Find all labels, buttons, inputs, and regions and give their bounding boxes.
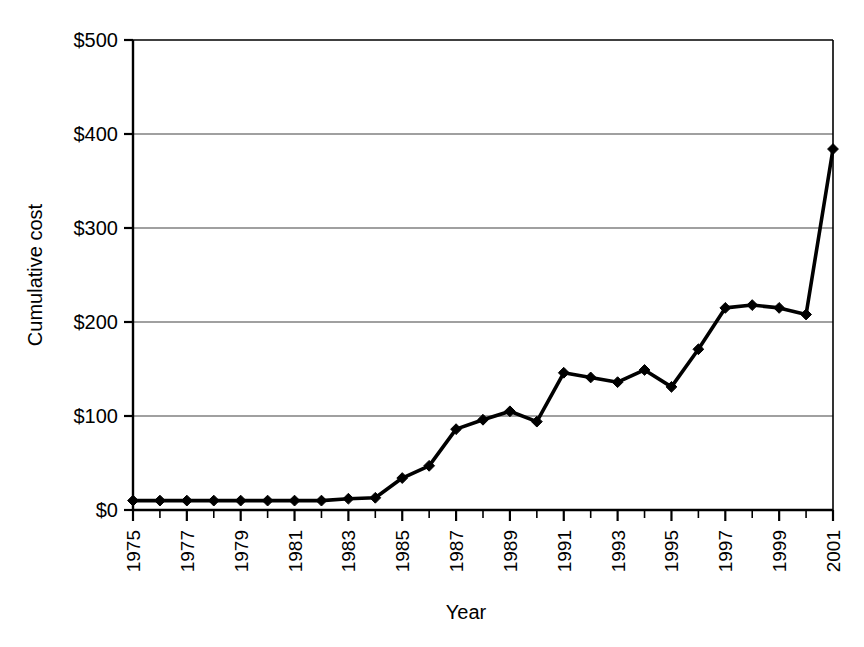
x-tick-label: 1993 (608, 530, 629, 572)
x-axis-title: Year (446, 601, 487, 623)
data-point-marker (128, 495, 139, 506)
x-tick-label: 1989 (500, 530, 521, 572)
y-tick-label: $100 (74, 405, 119, 427)
y-tick-label: $500 (74, 29, 119, 51)
data-point-marker (612, 377, 623, 388)
series-line-cumulative-cost (133, 149, 833, 501)
data-series-markers (128, 144, 839, 506)
data-point-marker (828, 144, 839, 155)
x-tick-label: 1979 (231, 530, 252, 572)
data-point-marker (505, 406, 516, 417)
x-tick-label: 1987 (446, 530, 467, 572)
y-tick-label: $300 (74, 217, 119, 239)
y-tick-label: $0 (96, 499, 118, 521)
data-point-marker (235, 495, 246, 506)
gridlines (133, 134, 833, 416)
chart-figure: $0$100$200$300$400$500 19751977197919811… (0, 0, 864, 647)
data-point-marker (155, 495, 166, 506)
x-tick-label: 1985 (392, 530, 413, 572)
data-point-marker (181, 495, 192, 506)
data-point-marker (801, 309, 812, 320)
x-tick-label: 1997 (715, 530, 736, 572)
data-point-marker (343, 493, 354, 504)
data-point-marker (747, 300, 758, 311)
data-point-marker (316, 495, 327, 506)
line-chart: $0$100$200$300$400$500 19751977197919811… (0, 0, 864, 647)
y-axis-title: Cumulative cost (24, 203, 46, 346)
data-point-marker (208, 495, 219, 506)
data-point-marker (585, 372, 596, 383)
x-tick-label: 2001 (823, 530, 844, 572)
y-axis-tick-labels: $0$100$200$300$400$500 (74, 29, 119, 521)
x-axis-ticks (133, 510, 833, 521)
data-point-marker (289, 495, 300, 506)
x-tick-label: 1977 (177, 530, 198, 572)
data-point-marker (262, 495, 273, 506)
y-axis-ticks (124, 40, 133, 510)
x-tick-label: 1999 (769, 530, 790, 572)
x-tick-label: 1983 (338, 530, 359, 572)
x-tick-label: 1995 (661, 530, 682, 572)
y-tick-label: $200 (74, 311, 119, 333)
x-tick-label: 1991 (554, 530, 575, 572)
x-axis-tick-labels: 1975197719791981198319851987198919911993… (123, 530, 844, 572)
x-tick-label: 1981 (285, 530, 306, 572)
data-point-marker (774, 303, 785, 314)
data-series-line (133, 149, 833, 501)
plot-frame (133, 40, 833, 510)
y-tick-label: $400 (74, 123, 119, 145)
x-tick-label: 1975 (123, 530, 144, 572)
